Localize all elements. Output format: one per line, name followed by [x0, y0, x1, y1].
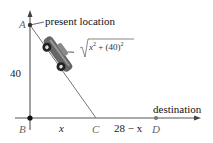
- point-d: [154, 116, 158, 120]
- car-icon: [39, 30, 82, 76]
- vertical-arrow-icon: [28, 10, 33, 17]
- formula-plus: + (40): [96, 42, 121, 52]
- point-a: [28, 23, 32, 27]
- label-segment-ab: 40: [10, 68, 21, 79]
- label-segment-bc: x: [59, 123, 64, 134]
- formula-exp2: 2: [121, 41, 124, 47]
- label-present-location: present location: [45, 16, 115, 27]
- label-point-a: A: [19, 19, 26, 30]
- label-segment-ac: x2 + (40)2: [89, 41, 124, 52]
- label-point-b: B: [19, 124, 26, 135]
- label-point-c: C: [92, 124, 99, 135]
- horizontal-arrow-icon: [194, 116, 201, 121]
- label-destination: destination: [153, 104, 201, 115]
- segment-ac: [30, 25, 96, 118]
- label-segment-cd: 28 − x: [114, 123, 142, 134]
- point-b: [27, 115, 32, 120]
- label-point-d: D: [152, 124, 160, 135]
